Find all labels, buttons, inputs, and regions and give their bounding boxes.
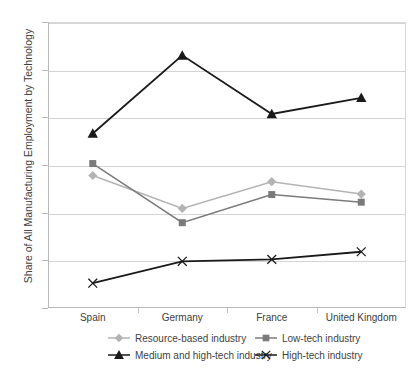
data-point-marker [356, 93, 366, 102]
series-line [93, 252, 362, 283]
data-point-marker [177, 50, 187, 59]
series-resource-based-industry [88, 171, 366, 213]
legend-triangle-icon [108, 349, 130, 361]
series-line [93, 175, 362, 208]
line-chart: Share of All Manufacturing Employment by… [0, 0, 419, 369]
chart-legend: Resource-based industryLow-tech industry… [0, 330, 419, 366]
x-tick-mark [227, 308, 228, 313]
legend-item-high-tech-industry[interactable]: High-tech industry [255, 347, 363, 363]
data-point-marker [267, 177, 276, 186]
x-tick-mark [138, 308, 139, 313]
data-point-marker [179, 219, 186, 226]
legend-row: Medium and high-tech industryHigh-tech i… [0, 347, 419, 363]
legend-item-resource-based-industry[interactable]: Resource-based industry [108, 330, 246, 346]
legend-x-icon [255, 349, 277, 361]
legend-item-low-tech-industry[interactable]: Low-tech industry [255, 330, 360, 346]
data-series-layer [48, 22, 406, 308]
legend-square-icon [255, 332, 277, 344]
legend-item-medium-and-high-tech-industry[interactable]: Medium and high-tech industry [108, 347, 272, 363]
data-point-marker [178, 204, 187, 213]
series-line [93, 55, 362, 133]
data-point-marker [268, 191, 275, 198]
legend-label: Medium and high-tech industry [135, 350, 272, 361]
x-tick-label-united-kingdom: United Kingdom [301, 312, 419, 323]
series-medium-and-high-tech-industry [88, 50, 367, 138]
y-tick-mark [42, 308, 48, 309]
x-tick-mark [317, 308, 318, 313]
series-line [93, 164, 362, 223]
legend-label: Low-tech industry [282, 333, 360, 344]
series-low-tech-industry [89, 160, 365, 226]
series-high-tech-industry [88, 247, 365, 287]
legend-label: Resource-based industry [135, 333, 246, 344]
data-point-marker [358, 199, 365, 206]
y-axis-title: Share of All Manufacturing Employment by… [22, 6, 34, 306]
data-point-marker [357, 189, 366, 198]
legend-label: High-tech industry [282, 350, 363, 361]
data-point-marker [88, 171, 97, 180]
data-point-marker [89, 160, 96, 167]
legend-row: Resource-based industryLow-tech industry [0, 330, 419, 346]
legend-diamond-icon [108, 332, 130, 344]
